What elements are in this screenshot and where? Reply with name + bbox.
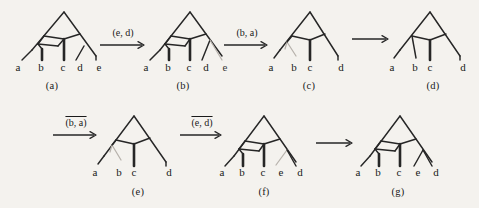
tree-edge: [239, 141, 245, 149]
leaf-label-d: d: [203, 61, 209, 73]
tree-leaf-edge-a: [22, 50, 32, 60]
leaf-label-d: d: [77, 61, 83, 73]
tree-edge: [190, 34, 206, 39]
leaf-label-d: d: [433, 166, 439, 178]
tree-edge: [375, 141, 381, 149]
tree-diagram-d: a b c d: [386, 8, 478, 74]
tree-diagram-f: a b c e d: [214, 112, 312, 178]
tree-leaf-edge-b-detached: [112, 145, 121, 160]
panel-caption-g: (g): [378, 186, 418, 197]
panel-caption-c: (c): [289, 80, 329, 91]
tree-edge: [310, 34, 325, 40]
tree-edge: [239, 149, 259, 151]
leaf-label-c: c: [397, 166, 402, 178]
tree-edge: [430, 34, 446, 40]
leaf-label-a: a: [390, 61, 395, 73]
tree-edge: [104, 116, 134, 156]
leaf-label-b: b: [412, 61, 418, 73]
tree-leaf-edge-b-detached: [287, 42, 296, 56]
leaf-label-e: e: [97, 61, 102, 73]
leaf-label-a: a: [93, 166, 98, 178]
leaf-label-c: c: [61, 61, 66, 73]
tree-leaf-edge-b: [412, 36, 416, 58]
leaf-label-a: a: [220, 166, 225, 178]
tree-leaf-edge-a: [394, 50, 400, 58]
tree-panel-d: a b c d: [386, 8, 478, 74]
tree-leaf-edge-a: [361, 156, 370, 166]
leaf-label-a: a: [356, 166, 361, 178]
leaf-label-d: d: [297, 166, 303, 178]
leaf-label-a: a: [144, 61, 149, 73]
tree-edge: [280, 12, 310, 50]
tree-edge: [165, 44, 185, 46]
leaf-label-b: b: [239, 166, 245, 178]
leaf-label-b: b: [375, 166, 381, 178]
tree-edge: [112, 140, 116, 145]
tree-diagram-g: a b c e d: [348, 112, 446, 178]
leaf-label-b: b: [38, 61, 44, 73]
tree-edge: [64, 34, 80, 39]
leaf-label-c: c: [308, 61, 313, 73]
tree-leaf-edge-a: [98, 156, 104, 164]
leaf-label-c: c: [132, 166, 137, 178]
tree-leaf-edge-a: [150, 50, 160, 60]
tree-panel-f: a b c e d: [214, 112, 312, 178]
tree-edge: [38, 44, 58, 46]
panel-caption-e: (e): [118, 186, 158, 197]
tree-diagram-c: a b c d: [262, 8, 354, 74]
tree-edge: [171, 36, 190, 39]
leaf-label-d: d: [460, 61, 466, 73]
tree-edge: [134, 116, 166, 162]
panel-caption-d: (d): [413, 80, 453, 91]
tree-edge: [165, 36, 171, 44]
tree-leaf-edge-e-detached: [276, 150, 287, 165]
leaf-label-b: b: [116, 166, 122, 178]
leaf-label-d: d: [338, 61, 344, 73]
leaf-label-a: a: [269, 61, 274, 73]
leaf-label-b: b: [291, 61, 297, 73]
tree-panel-e: a b c d: [88, 112, 184, 178]
leaf-label-c: c: [261, 166, 266, 178]
leaf-label-c: c: [187, 61, 192, 73]
figure-root: a b c d e (a) (e, d): [0, 0, 479, 208]
tree-diagram-a: a b c d e: [8, 8, 104, 74]
tree-edge: [400, 139, 416, 144]
tree-edge: [134, 138, 150, 144]
tree-edge: [44, 36, 64, 39]
tree-diagram-e: a b c d: [88, 112, 184, 178]
tree-leaf-edge-d: [76, 46, 84, 60]
tree-edge: [400, 12, 430, 50]
leaf-label-b: b: [165, 61, 171, 73]
tree-panel-a: a b c d e: [8, 8, 104, 74]
tree-leaf-edge-a: [225, 156, 234, 166]
panel-caption-b: (b): [163, 80, 203, 91]
leaf-label-e: e: [416, 166, 421, 178]
tree-leaf-edge-d: [287, 150, 296, 166]
tree-leaf-edge-d: [423, 150, 432, 166]
tree-edge: [245, 141, 264, 144]
tree-leaf-edge-a: [274, 50, 280, 58]
leaf-label-a: a: [16, 61, 21, 73]
panel-caption-f: (f): [244, 186, 284, 197]
tree-edge: [381, 141, 400, 144]
tree-edge: [292, 36, 310, 40]
tree-edge: [38, 36, 44, 44]
leaf-label-e: e: [223, 61, 228, 73]
tree-leaf-edge-d: [202, 40, 210, 60]
leaf-label-c: c: [428, 61, 433, 73]
panel-caption-a: (a): [32, 80, 72, 91]
tree-edge: [375, 149, 395, 151]
tree-edge: [116, 140, 134, 144]
tree-edge: [264, 139, 280, 144]
leaf-label-e: e: [279, 166, 284, 178]
tree-panel-c: a b c d: [262, 8, 354, 74]
tree-edge: [412, 36, 430, 40]
leaf-label-d: d: [166, 166, 172, 178]
tree-leaf-edge-e: [414, 150, 423, 166]
tree-panel-g: a b c e d: [348, 112, 446, 178]
